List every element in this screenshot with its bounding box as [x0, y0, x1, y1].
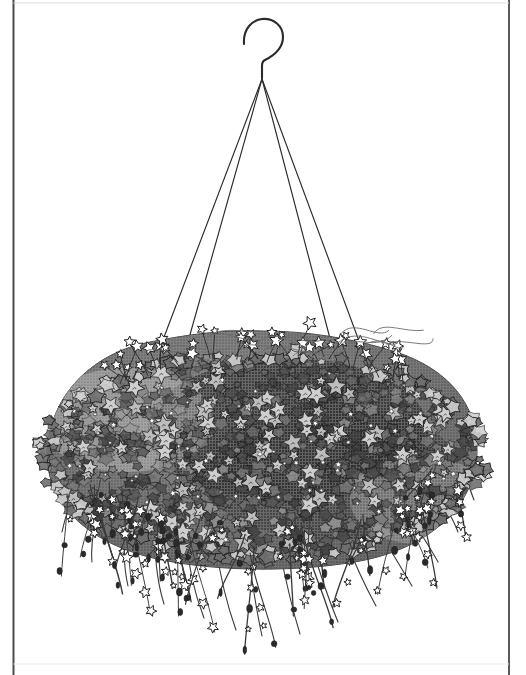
trailing-bud: [139, 529, 144, 536]
trailing-bud: [254, 587, 258, 593]
trailing-bud: [279, 541, 284, 547]
trailing-bud: [291, 607, 297, 612]
trailing-bud: [160, 574, 164, 581]
trailing-bud: [217, 520, 223, 525]
trailing-bud: [161, 538, 167, 544]
trailing-bud: [392, 546, 398, 554]
trailing-bud: [237, 560, 243, 566]
trailing-bud: [406, 553, 409, 560]
trailing-bud: [323, 569, 327, 577]
trailing-bud: [135, 544, 138, 551]
illustration-page: Hanging Basket Illustration Grayscale li…: [0, 0, 526, 675]
trailing-bud: [146, 513, 151, 521]
trailing-bud: [422, 559, 428, 566]
trailing-bud: [243, 646, 247, 654]
trailing-bud: [110, 530, 115, 538]
trailing-bud: [193, 533, 198, 539]
trailing-bud: [160, 527, 165, 534]
trailing-bud: [247, 604, 253, 612]
trailing-bud: [271, 641, 277, 647]
hanging-basket-illustration: Hanging Basket Illustration Grayscale li…: [0, 0, 526, 675]
trailing-bud: [219, 589, 222, 597]
trailing-bud: [174, 539, 179, 547]
trailing-bud: [99, 492, 103, 498]
trailing-bud: [330, 619, 334, 625]
trailing-bud: [131, 577, 134, 584]
trailing-bud: [285, 574, 291, 579]
trailing-bud: [178, 609, 183, 616]
trailing-bud: [133, 552, 139, 557]
trailing-bud: [350, 558, 354, 565]
trailing-bud: [458, 511, 463, 517]
trailing-bud: [156, 556, 160, 562]
trailing-bud: [159, 521, 163, 527]
trailing-bud: [166, 534, 172, 540]
trailing-bud: [81, 551, 86, 557]
trailing-bud: [129, 534, 132, 541]
trailing-bud: [112, 561, 116, 568]
trailing-bud: [184, 595, 188, 601]
trailing-bud: [418, 486, 423, 494]
trailing-bud: [156, 538, 161, 544]
trailing-bud: [298, 535, 303, 542]
trailing-bud: [428, 517, 431, 525]
trailing-bud: [147, 554, 151, 562]
trailing-bud: [422, 523, 427, 529]
trailing-bud: [403, 496, 408, 501]
trailing-bud: [197, 542, 202, 548]
trailing-bud: [294, 539, 297, 547]
trailing-bud: [368, 566, 373, 574]
trailing-bud: [318, 583, 323, 590]
trailing-bud: [86, 536, 92, 542]
trailing-bud: [116, 582, 120, 588]
trailing-bud: [62, 543, 67, 548]
trailing-bud: [103, 538, 106, 545]
trailing-bud: [57, 568, 62, 575]
trailing-bud: [186, 554, 190, 560]
trailing-bud: [311, 590, 316, 595]
trailing-bud: [394, 528, 398, 533]
